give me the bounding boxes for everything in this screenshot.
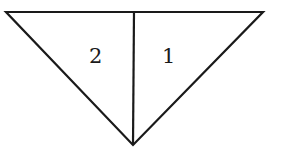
divider-line [133, 11, 134, 145]
region-label-right: 1 [162, 44, 175, 68]
triangle-diagram: 2 1 [0, 0, 283, 154]
region-label-left: 2 [89, 44, 102, 68]
